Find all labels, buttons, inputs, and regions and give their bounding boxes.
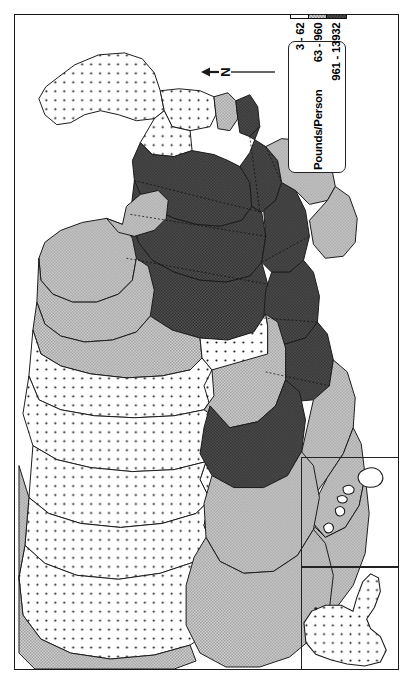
legend-rows: 3 - 62 63 - 960 961 - 13932 (291, 14, 345, 85)
legend-row[interactable]: 3 - 62 (291, 14, 309, 85)
legend-title: Pounds/Person (312, 90, 324, 170)
legend-label-class-2: 63 - 960 (312, 23, 324, 85)
hawaii-island-kauai (324, 523, 334, 533)
legend-inner: Pounds/Person 3 - 62 63 - 960 961 - 1393… (289, 42, 347, 174)
hawaii-island-maui (343, 485, 354, 494)
map-page: N Pounds/Person 3 - 62 63 - 960 (0, 0, 414, 685)
alaska-aleutian-dot (314, 607, 317, 610)
map-frame: N Pounds/Person 3 - 62 63 - 960 (14, 14, 399, 670)
hawaii-inset[interactable] (301, 457, 399, 567)
legend-swatch-class-3 (326, 14, 347, 19)
legend-label-class-1: 3 - 62 (294, 23, 306, 85)
region-massachusetts-strip (214, 93, 238, 131)
legend[interactable]: Pounds/Person 3 - 62 63 - 960 961 - 1393… (288, 41, 346, 173)
region-maine (39, 53, 164, 125)
hawaii-island-molokai (337, 495, 347, 503)
alaska-mainland (304, 574, 386, 666)
north-arrow-label: N (218, 67, 233, 76)
alaska-inset[interactable] (301, 567, 399, 670)
hawaii-island-oahu (335, 507, 344, 516)
north-arrow-icon: N (201, 61, 277, 83)
legend-row[interactable]: 63 - 960 (309, 14, 327, 85)
hawaii-island-hawaii (358, 468, 383, 488)
legend-rotated-content: Pounds/Person 3 - 62 63 - 960 961 - 1393… (289, 42, 347, 174)
legend-row[interactable]: 961 - 13932 (327, 14, 345, 85)
legend-label-class-3: 961 - 13932 (330, 23, 342, 85)
